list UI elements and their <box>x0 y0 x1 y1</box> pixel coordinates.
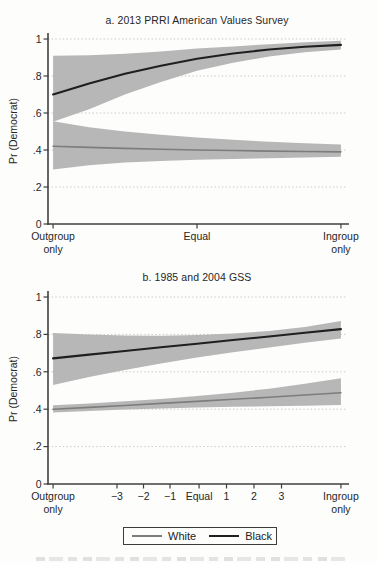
x-tick-label: −2 <box>138 490 150 502</box>
y-tick-label: .8 <box>33 70 42 82</box>
x-tick-label: only <box>331 503 351 515</box>
legend-black-label: Black <box>245 530 272 542</box>
y-tick-label: 1 <box>36 291 42 303</box>
x-tick-label: 1 <box>224 490 230 502</box>
confidence-band-white <box>53 121 341 169</box>
panel-b-title: b. 1985 and 2004 GSS <box>48 271 346 283</box>
x-tick-label: 2 <box>251 490 257 502</box>
cropped-caption-text-fragment <box>36 557 349 561</box>
y-tick-label: .2 <box>33 440 42 452</box>
x-tick-label: only <box>43 503 63 515</box>
legend-white-line-sample <box>132 535 162 537</box>
y-tick-label: .8 <box>33 328 42 340</box>
y-tick-label: 1 <box>36 33 42 45</box>
x-tick-label: Ingroup <box>323 230 359 242</box>
x-tick-label: Equal <box>186 490 213 502</box>
y-tick-label: 0 <box>36 218 42 230</box>
panel-b-y-axis-label: Pr (Democrat) <box>7 341 19 437</box>
y-tick-label: .2 <box>33 181 42 193</box>
x-tick-label: only <box>331 243 351 255</box>
x-tick-label: Outgroup <box>31 490 75 502</box>
y-tick-label: .4 <box>33 403 42 415</box>
y-tick-label: .4 <box>33 144 42 156</box>
x-tick-label: Equal <box>184 230 211 242</box>
x-tick-label: only <box>43 243 63 255</box>
x-tick-label: −3 <box>111 490 123 502</box>
panel-a-y-axis-label: Pr (Democrat) <box>7 83 19 179</box>
y-tick-label: .6 <box>33 107 42 119</box>
y-tick-label: .6 <box>33 366 42 378</box>
x-tick-label: 3 <box>279 490 285 502</box>
panel-a-title: a. 2013 PRRI American Values Survey <box>48 14 346 26</box>
x-tick-label: Ingroup <box>323 490 359 502</box>
x-tick-label: −1 <box>164 490 176 502</box>
legend: White Black <box>123 527 277 545</box>
y-tick-label: 0 <box>36 478 42 490</box>
figure-page: 0.2.4.6.81OutgrouponlyEqualIngrouponly0.… <box>0 0 377 563</box>
legend-black-line-sample <box>209 535 239 538</box>
legend-white-label: White <box>168 530 196 542</box>
x-tick-label: Outgroup <box>31 230 75 242</box>
